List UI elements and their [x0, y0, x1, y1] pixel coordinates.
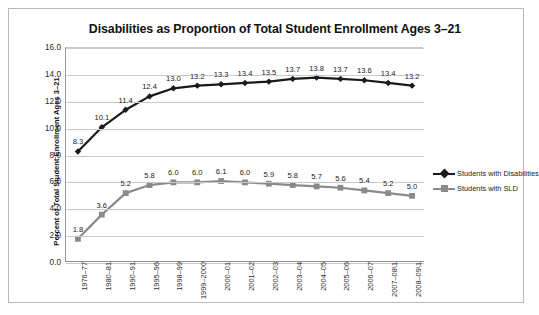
x-tick-label: 2006–07 — [366, 262, 375, 314]
x-tick-label: 2001–02 — [247, 262, 256, 314]
data-point-marker — [409, 82, 415, 88]
x-tick-label: 1999–2000 — [199, 262, 208, 314]
data-label: 5.6 — [335, 174, 346, 183]
x-tick-label: 2004–05 — [319, 262, 328, 314]
x-tick-label: 1995–96 — [152, 262, 161, 314]
legend-marker — [440, 169, 450, 179]
gridline — [66, 156, 424, 157]
data-point-marker — [361, 188, 367, 194]
x-axis-tick-labels: 1976–771980–811990–911995–961998–991999–… — [65, 264, 423, 315]
data-point-marker — [409, 193, 415, 199]
data-label: 6.0 — [168, 168, 179, 177]
gridline — [66, 48, 424, 49]
data-label: 5.7 — [311, 172, 322, 181]
gridline — [66, 129, 424, 130]
y-axis-title-container: Percent of Total Student Enrollment Ages… — [23, 57, 43, 253]
legend-swatch-square-icon — [433, 184, 455, 193]
chart-legend: Students with DisabilitiesStudents with … — [433, 169, 537, 199]
legend-item[interactable]: Students with SLD — [433, 184, 537, 193]
data-label: 10.1 — [94, 113, 109, 122]
series-line — [78, 78, 412, 152]
data-label: 5.4 — [359, 176, 370, 185]
y-axis-title: Percent of Total Student Enrollment Ages… — [52, 67, 61, 257]
legend-item[interactable]: Students with Disabilities — [433, 169, 537, 178]
data-label: 13.6 — [357, 66, 372, 75]
data-label: 13.4 — [238, 69, 253, 78]
data-label: 5.2 — [383, 179, 394, 188]
data-label: 5.9 — [264, 170, 275, 179]
data-label: 6.1 — [216, 167, 227, 176]
data-label: 6.0 — [192, 168, 203, 177]
data-point-marker — [338, 185, 344, 191]
data-point-marker — [170, 85, 176, 91]
data-label: 6.0 — [240, 168, 251, 177]
y-tick-label: 0.0 — [21, 258, 61, 267]
x-tick-label: 1998–99 — [175, 262, 184, 314]
data-point-marker — [385, 190, 391, 196]
data-label: 5.8 — [287, 171, 298, 180]
data-point-marker — [242, 80, 248, 86]
data-point-marker — [361, 77, 367, 83]
legend-swatch-diamond-icon — [433, 169, 455, 178]
x-tick-label: 2007–08\1 — [390, 262, 399, 314]
data-label: 12.4 — [142, 82, 157, 91]
data-point-marker — [337, 76, 343, 82]
x-tick-label: 2005–06 — [342, 262, 351, 314]
data-label: 1.8 — [73, 225, 84, 234]
data-label: 13.8 — [309, 64, 324, 73]
data-point-marker — [123, 190, 129, 196]
data-label: 13.5 — [261, 68, 276, 77]
data-label: 13.7 — [285, 65, 300, 74]
legend-label: Students with SLD — [457, 184, 518, 193]
legend-label: Students with Disabilities — [457, 169, 539, 178]
legend-marker — [441, 185, 448, 192]
data-point-marker — [99, 212, 105, 218]
x-tick-label: 1980–81 — [104, 262, 113, 314]
data-point-marker — [314, 184, 320, 190]
data-label: 11.4 — [119, 96, 133, 105]
data-label: 5.2 — [120, 179, 131, 188]
x-tick-label: 2000–01 — [223, 262, 232, 314]
plot-area: 8.310.111.412.413.013.213.313.413.513.71… — [65, 47, 423, 262]
data-point-marker — [290, 76, 296, 82]
x-tick-label: 1976–77 — [80, 262, 89, 314]
y-tick-label: 16.0 — [21, 43, 61, 52]
x-tick-label: 2008–09\1 — [414, 262, 423, 314]
data-point-marker — [218, 81, 224, 87]
data-label: 5.8 — [144, 171, 155, 180]
data-label: 13.7 — [333, 65, 348, 74]
data-label: 3.6 — [97, 201, 108, 210]
gridline — [66, 209, 424, 210]
chart-frame: Disabilities as Proportion of Total Stud… — [8, 8, 524, 303]
data-label: 13.3 — [214, 70, 229, 79]
x-tick-label: 2003–04 — [295, 262, 304, 314]
data-label: 13.2 — [190, 72, 205, 81]
data-label: 5.0 — [407, 182, 418, 191]
data-label: 13.4 — [381, 69, 396, 78]
data-label: 13.2 — [405, 72, 420, 81]
x-tick-label: 2002–03 — [271, 262, 280, 314]
gridline — [66, 236, 424, 237]
data-point-marker — [194, 82, 200, 88]
chart-title: Disabilities as Proportion of Total Stud… — [49, 22, 501, 36]
x-tick-label: 1990–91 — [128, 262, 137, 314]
data-point-marker — [266, 78, 272, 84]
data-label: 13.0 — [166, 74, 181, 83]
data-point-marker — [385, 80, 391, 86]
data-label: 8.3 — [73, 137, 84, 146]
